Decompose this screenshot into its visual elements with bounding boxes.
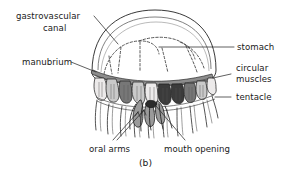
figure-caption: (b) (139, 157, 152, 168)
label-circular-muscles-line2: muscles (236, 74, 272, 84)
label-manubrium: manubrium (22, 57, 72, 67)
tentacle-8b (194, 105, 197, 131)
label-stomach: stomach (237, 42, 274, 52)
marginal-lobe-2 (106, 79, 119, 102)
tentacle-9 (203, 102, 207, 127)
oral-arm-frill-5 (165, 106, 172, 128)
mouth-opening-group (146, 100, 157, 107)
label-tentacle: tentacle (236, 92, 272, 102)
figure-container: gastrovascular canal manubrium stomach c… (0, 0, 288, 170)
marginal-lobe-6 (158, 84, 171, 105)
marginal-lobe-10 (207, 78, 216, 95)
bell-group (92, 10, 216, 82)
marginal-lobe-8 (184, 83, 196, 103)
tentacle-2b (112, 105, 113, 134)
marginal-lobe-3 (119, 81, 132, 103)
tentacle-9b (207, 100, 212, 123)
marginal-lobe-9 (196, 81, 207, 100)
label-gastrovascular-canal-line2: canal (43, 23, 66, 33)
leader-circular-muscles (213, 74, 231, 78)
label-oral-arms: oral arms (89, 144, 131, 154)
bell-outer-outline (92, 10, 216, 82)
mouth-opening-shape (146, 100, 157, 107)
label-gastrovascular-canal-line1: gastrovascular (16, 11, 80, 21)
tentacle-7b (181, 107, 183, 135)
tentacle-2 (107, 104, 109, 134)
tentacle-1b (100, 102, 101, 131)
tentacle-1 (95, 100, 97, 130)
marginal-lobe-7 (171, 84, 184, 104)
label-circular-muscles-line1: circular (236, 63, 269, 73)
label-mouth-opening: mouth opening (164, 144, 230, 154)
jellyfish-anatomy-diagram: gastrovascular canal manubrium stomach c… (0, 0, 288, 170)
marginal-lobe-4 (132, 82, 145, 104)
tentacle-8 (190, 106, 193, 133)
tentacle-3b (125, 107, 126, 136)
